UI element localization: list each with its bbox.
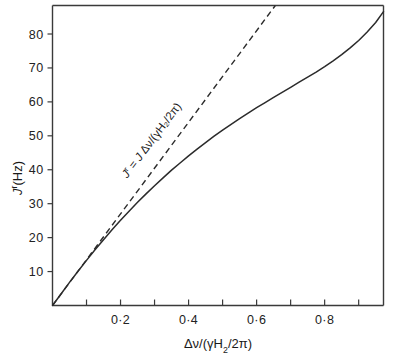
figure-container: 1020304050607080 0·20·40·60·8 Jr = J Δν/… [0,0,400,358]
y-tick-label-70: 70 [29,61,44,75]
x-axis-tick-labels: 0·20·40·60·8 [111,313,334,327]
plot-frame [53,6,384,306]
y-tick-label-80: 80 [29,28,44,42]
x-tick-label-0-2: 0·2 [111,313,130,327]
data-series-group [53,6,384,306]
y-tick-label-30: 30 [29,197,44,211]
y-axis-tick-labels: 1020304050607080 [29,28,44,280]
x-tick-label-0-4: 0·4 [179,313,198,327]
chart-canvas: 1020304050607080 0·20·40·60·8 Jr = J Δν/… [0,0,400,358]
x-axis-ticks [87,300,359,306]
y-tick-label-60: 60 [29,95,44,109]
y-axis-title-group: Jr(Hz) [9,161,25,196]
y-tick-label-20: 20 [29,231,44,245]
y-tick-label-40: 40 [29,163,44,177]
x-tick-label-0-8: 0·8 [315,313,334,327]
x-axis-title-group: Δν/(γH2/2π) [184,336,252,355]
y-tick-label-50: 50 [29,129,44,143]
x-tick-label-0-6: 0·6 [247,313,266,327]
observed-reduced-coupling-curve [53,12,384,306]
y-tick-label-10: 10 [29,265,44,279]
x-axis-title: Δν/(γH2/2π) [184,336,252,355]
y-axis-ticks [48,34,53,272]
y-axis-title: Jr(Hz) [9,161,25,196]
